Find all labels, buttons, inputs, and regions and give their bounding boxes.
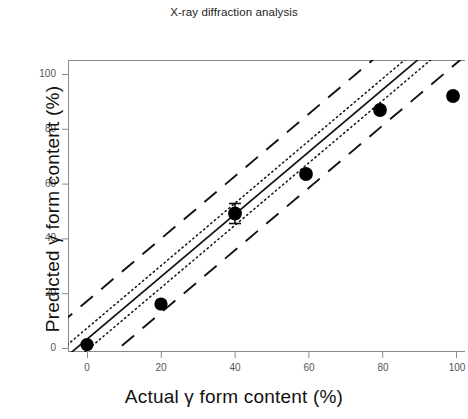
data-point xyxy=(299,167,313,181)
x-tick-label-80: 80 xyxy=(363,362,403,373)
x-tick-label-40: 40 xyxy=(215,362,255,373)
data-point xyxy=(80,338,93,351)
x-axis-ticks xyxy=(88,352,457,358)
chart-figure: X-ray diffraction analysis xyxy=(0,0,468,419)
data-point xyxy=(228,207,242,221)
confidence-interval-upper-line xyxy=(60,0,468,351)
x-tick-label-100: 100 xyxy=(437,362,468,373)
scatter-plot-canvas xyxy=(0,0,468,419)
data-point xyxy=(154,297,167,310)
prediction-interval-lower-line xyxy=(60,45,468,398)
plot-frame xyxy=(68,60,465,352)
data-point xyxy=(373,103,387,117)
x-tick-label-0: 0 xyxy=(67,362,107,373)
data-point xyxy=(446,89,460,103)
chart-title: X-ray diffraction analysis xyxy=(0,6,468,18)
regression-line xyxy=(60,9,468,362)
x-axis-title: Actual γ form content (%) xyxy=(0,386,468,408)
confidence-interval-lower-line xyxy=(60,20,468,373)
prediction-interval-upper-line xyxy=(60,0,468,324)
x-tick-label-20: 20 xyxy=(141,362,181,373)
y-axis-title: Predicted γ form content (%) xyxy=(42,59,64,359)
x-tick-label-60: 60 xyxy=(289,362,329,373)
